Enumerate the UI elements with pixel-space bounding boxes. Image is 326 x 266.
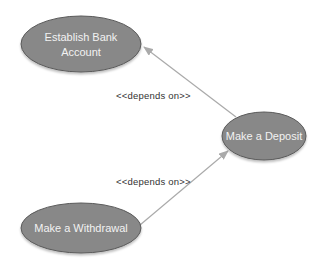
use-case-label: Make a Withdrawal xyxy=(34,222,128,234)
use-case-ellipse[interactable] xyxy=(21,16,141,72)
arrow-line xyxy=(144,47,236,117)
edge-label: <<depends on>> xyxy=(116,176,191,187)
use-case-label-line2: Account xyxy=(61,46,101,58)
arrow-line xyxy=(140,151,228,225)
dependency-edge-withdrawal-to-deposit: <<depends on>> xyxy=(116,151,228,225)
use-case-make-a-deposit[interactable]: Make a Deposit xyxy=(222,112,306,160)
use-case-label: Make a Deposit xyxy=(226,130,302,142)
use-case-label-line1: Establish Bank xyxy=(45,31,118,43)
use-case-diagram: <<depends on>> <<depends on>> Establish … xyxy=(0,0,326,266)
use-case-make-a-withdrawal[interactable]: Make a Withdrawal xyxy=(21,203,141,253)
use-case-establish-bank-account[interactable]: Establish Bank Account xyxy=(21,16,141,72)
edge-label: <<depends on>> xyxy=(116,90,191,101)
